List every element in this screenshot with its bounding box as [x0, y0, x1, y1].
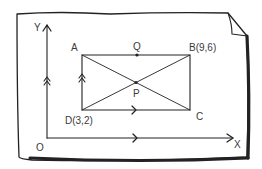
y-axis-label: Y [34, 22, 41, 33]
point-q-dot [135, 53, 138, 56]
point-a-label: A [71, 42, 78, 53]
point-d-label: D(3,2) [65, 115, 93, 126]
point-b-label: B(9,6) [189, 42, 216, 53]
point-p-dot [134, 81, 137, 84]
point-q-label: Q [133, 41, 141, 52]
x-axis-label: X [234, 139, 241, 150]
point-p-label: P [133, 88, 140, 99]
geometry-diagram: Y X O A B(9,6) C D(3,2) P Q [0, 0, 262, 169]
paper-shadow-right [247, 36, 249, 158]
paper-shadow-bottom [30, 158, 248, 161]
point-c-label: C [196, 111, 203, 122]
rectangle-abcd: A B(9,6) C D(3,2) P Q [65, 41, 216, 126]
origin-label: O [36, 142, 44, 153]
